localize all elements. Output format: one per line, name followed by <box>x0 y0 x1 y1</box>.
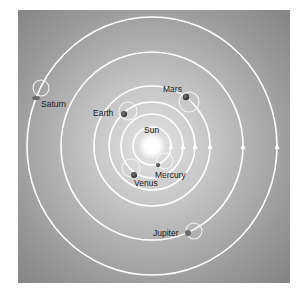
sun-icon <box>146 140 158 152</box>
label-earth: Earth <box>93 108 114 118</box>
jupiter-icon <box>185 230 191 236</box>
saturn-icon <box>32 96 40 100</box>
label-sun: Sun <box>144 125 159 135</box>
label-mars: Mars <box>163 84 182 94</box>
solar-system-diagram: Sun Saturn Earth Mars Mercury Venus Jupi… <box>0 0 301 293</box>
label-mercury: Mercury <box>155 170 186 180</box>
earth-icon <box>121 111 127 117</box>
label-venus: Venus <box>134 178 158 188</box>
mercury-icon <box>156 163 160 167</box>
label-saturn: Saturn <box>41 99 66 109</box>
label-jupiter: Jupiter <box>153 228 179 238</box>
mars-icon <box>183 94 189 100</box>
